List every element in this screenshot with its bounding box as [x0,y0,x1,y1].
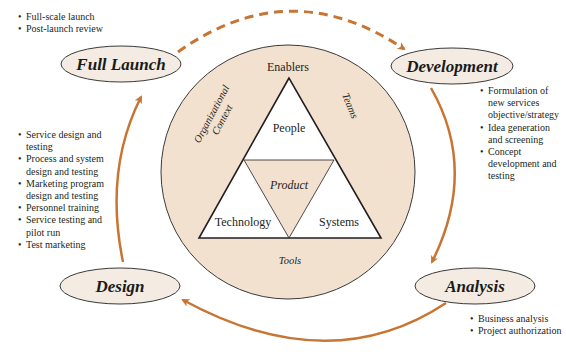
stage-design: Design [60,268,180,304]
arrow-development-to-analysis [431,88,455,262]
development-activities: Formulation of new services objective/st… [480,85,566,183]
activity-item: Business analysis [470,313,566,325]
activity-item: Service design and testing [18,129,118,153]
product-label: Product [269,178,309,192]
activity-item: Marketing program design and testing [18,178,118,202]
design-activities: Service design and testing Process and s… [18,129,118,251]
stage-analysis-label: Analysis [444,277,505,296]
activity-item: Formulation of new services objective/st… [480,85,566,122]
activity-item: Project authorization [470,325,566,337]
tools-label: Tools [279,255,301,266]
activity-item: Concept development and testing [480,146,566,183]
activity-item: Idea generation and screening [480,122,566,146]
activity-item: Post-launch review [18,23,168,35]
arrow-analysis-to-design [183,300,446,341]
activity-item: Test marketing [18,239,118,251]
people-label: People [273,121,306,135]
stage-full-launch-label: Full Launch [75,55,165,74]
analysis-activities: Business analysis Project authorization [470,313,566,337]
stage-analysis: Analysis [415,268,535,304]
arrow-design-to-full-launch [117,97,141,262]
technology-label: Technology [215,215,271,229]
activity-item: Personnel training [18,202,118,214]
stage-development: Development [391,48,513,84]
stage-full-launch: Full Launch [61,46,181,82]
full-launch-activities: Full-scale launch Post-launch review [18,11,168,35]
stage-development-label: Development [405,57,499,76]
activity-item: Full-scale launch [18,11,168,23]
systems-label: Systems [319,215,359,229]
activity-item: Process and system design and testing [18,153,118,177]
enablers-label: Enablers [267,60,309,74]
stage-design-label: Design [94,277,144,296]
new-service-development-diagram: Enablers People Product Technology Syste… [0,0,566,360]
activity-item: Service testing and pilot run [18,214,118,238]
